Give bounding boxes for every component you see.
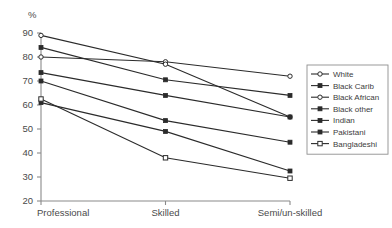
series-data-point	[288, 169, 292, 173]
series-data-point	[164, 93, 168, 97]
x-axis-category-label: Semi/un-skilled	[258, 207, 322, 218]
series-line	[41, 35, 290, 117]
series-line	[41, 103, 290, 171]
series-lines	[39, 33, 292, 180]
y-tick-label: 80	[22, 51, 33, 62]
legend-marker	[318, 95, 322, 99]
x-axis-category-label: Professional	[37, 207, 89, 218]
y-tick-label: 90	[22, 27, 33, 38]
series-data-point	[288, 74, 292, 78]
y-axis-unit-label: %	[28, 9, 37, 20]
series-data-point	[39, 45, 43, 49]
y-axis-ticks: 2030405060708090	[22, 27, 41, 206]
series-data-point	[288, 140, 292, 144]
series-data-point	[39, 97, 43, 101]
legend-marker	[318, 118, 322, 122]
x-axis-ticks: ProfessionalSkilledSemi/un-skilled	[37, 201, 322, 218]
line-chart: % 2030405060708090 ProfessionalSkilledSe…	[0, 0, 392, 228]
y-tick-label: 40	[22, 147, 33, 158]
series-data-point	[39, 71, 43, 75]
y-tick-label: 70	[22, 75, 33, 86]
y-tick-label: 50	[22, 123, 33, 134]
series-data-point	[163, 156, 167, 160]
series-data-point	[164, 78, 168, 82]
series-data-point	[39, 79, 43, 83]
legend-marker	[318, 72, 322, 76]
legend-label: Bangladeshi	[333, 140, 377, 149]
series-data-point	[288, 176, 292, 180]
y-tick-label: 30	[22, 171, 33, 182]
legend-marker	[318, 141, 322, 145]
series-data-point	[163, 62, 167, 66]
y-tick-label: 20	[22, 195, 33, 206]
series-data-point	[288, 93, 292, 97]
legend-label: Black Carib	[333, 82, 374, 91]
legend-marker	[318, 107, 322, 111]
chart-canvas: % 2030405060708090 ProfessionalSkilledSe…	[0, 0, 392, 228]
series-data-point	[288, 115, 292, 119]
legend-label: Pakistani	[333, 128, 366, 137]
series-data-point	[39, 55, 43, 59]
legend-label: White	[333, 70, 354, 79]
x-axis-category-label: Skilled	[152, 207, 180, 218]
legend-marker	[318, 130, 322, 134]
legend-label: Black African	[333, 93, 379, 102]
series-data-point	[39, 33, 43, 37]
y-tick-label: 60	[22, 99, 33, 110]
series-data-point	[164, 129, 168, 133]
series-data-point	[164, 119, 168, 123]
legend-label: Indian	[333, 116, 355, 125]
legend-label: Black other	[333, 105, 373, 114]
legend-marker	[318, 84, 322, 88]
chart-legend: WhiteBlack CaribBlack AfricanBlack other…	[307, 65, 388, 154]
